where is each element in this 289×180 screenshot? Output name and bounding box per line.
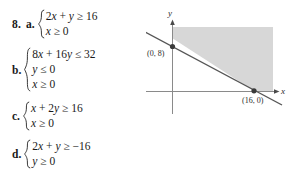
equation-a-1: 2x + y ≥ 16 xyxy=(46,9,98,24)
equation-d-1: 2x + y ≥ −16 xyxy=(32,139,90,154)
equation-group-c: x + 2y ≥ 16 x ≥ 0 xyxy=(31,101,83,131)
system-d: 2x + y ≥ −16 y ≥ 0 xyxy=(24,139,90,169)
equation-b-1: 8x + 16y ≤ 32 xyxy=(32,47,95,62)
y-intercept-point xyxy=(170,44,175,49)
part-letter-d: d. xyxy=(12,148,21,160)
graph-panel: x y (0, 8) (16, 0) xyxy=(146,0,289,180)
equation-group-a: 2x + y ≥ 16 x ≥ 0 xyxy=(46,9,98,39)
problem-list: 8. a. 2x + y ≥ 16 x ≥ 0 b. 8x + 16y ≤ 3 xyxy=(0,0,146,180)
left-brace-icon xyxy=(24,47,31,92)
inequality-graph: x y (0, 8) (16, 0) xyxy=(146,0,289,180)
problem-part-c: c. x + 2y ≥ 16 x ≥ 0 xyxy=(12,101,83,131)
y-intercept-label: (0, 8) xyxy=(147,49,165,58)
left-brace-icon xyxy=(38,9,45,39)
equation-b-2: y ≤ 0 xyxy=(32,62,95,77)
system-b: 8x + 16y ≤ 32 y ≤ 0 x ≥ 0 xyxy=(24,47,95,92)
y-axis-label: y xyxy=(167,8,172,18)
left-brace-icon xyxy=(24,139,31,169)
x-axis-label: x xyxy=(280,86,285,96)
y-axis-arrow-icon xyxy=(170,20,175,26)
equation-group-b: 8x + 16y ≤ 32 y ≤ 0 x ≥ 0 xyxy=(32,47,95,92)
shaded-region-wedge xyxy=(172,27,273,91)
exercise-number: 8. xyxy=(12,18,21,30)
problem-part-b: b. 8x + 16y ≤ 32 y ≤ 0 x ≥ 0 xyxy=(12,47,96,92)
system-c: x + 2y ≥ 16 x ≥ 0 xyxy=(23,101,83,131)
equation-c-1: x + 2y ≥ 16 xyxy=(31,101,83,116)
system-a: 2x + y ≥ 16 x ≥ 0 xyxy=(38,9,98,39)
problem-part-d: d. 2x + y ≥ −16 y ≥ 0 xyxy=(12,139,91,169)
equation-c-2: x ≥ 0 xyxy=(31,116,83,131)
x-intercept-point xyxy=(251,88,256,93)
part-letter-b: b. xyxy=(12,64,21,76)
problem-part-a: 8. a. 2x + y ≥ 16 x ≥ 0 xyxy=(12,9,97,39)
equation-b-3: x ≥ 0 xyxy=(32,77,95,92)
part-letter-c: c. xyxy=(12,110,20,122)
part-letter-a: a. xyxy=(26,18,35,30)
x-intercept-label: (16, 0) xyxy=(242,96,264,105)
left-brace-icon xyxy=(23,101,30,131)
equation-d-2: y ≥ 0 xyxy=(32,154,90,169)
equation-a-2: x ≥ 0 xyxy=(46,24,98,39)
x-axis-arrow-icon xyxy=(274,89,280,94)
equation-group-d: 2x + y ≥ −16 y ≥ 0 xyxy=(32,139,90,169)
